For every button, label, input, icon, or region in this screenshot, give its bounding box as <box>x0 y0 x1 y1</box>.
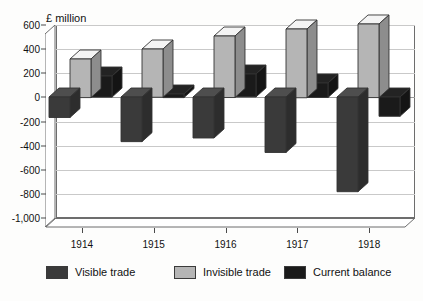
bar-1918-visible-trade <box>337 97 358 192</box>
gridline--1000 <box>56 218 415 219</box>
y-tick-mark--600 <box>41 169 46 170</box>
y-tick-label--800: -800 <box>20 188 40 199</box>
y-tick-mark--1000 <box>41 218 46 219</box>
x-tick-mark-1915 <box>154 228 155 233</box>
y-tick-label-400: 400 <box>23 44 40 55</box>
plot-area: 6004002000-200-400-600-800-1,000 1914191… <box>46 34 405 227</box>
y-tick-mark--800 <box>41 193 46 194</box>
y-tick-mark-200 <box>41 73 46 74</box>
y-tick-label-600: 600 <box>23 20 40 31</box>
bar-1916-visible-trade <box>193 97 214 138</box>
bar-1917-visible-trade <box>265 97 286 152</box>
y-tick-label-200: 200 <box>23 68 40 79</box>
legend-label-invisible-trade: Invisible trade <box>203 266 271 278</box>
y-tick-mark-400 <box>41 49 46 50</box>
bar-1918-current-balance <box>379 97 400 116</box>
legend-swatch-visible-trade <box>46 266 68 279</box>
chart-container: £ million 6004002000-200-400-600-800-1,0… <box>0 0 423 301</box>
y-tick-mark--200 <box>41 121 46 122</box>
legend-label-current-balance: Current balance <box>313 266 391 278</box>
chart-legend: Visible tradeInvisible tradeCurrent bala… <box>46 262 386 288</box>
y-axis-title: £ million <box>46 12 86 24</box>
y-tick-label--600: -600 <box>20 164 40 175</box>
x-tick-label-1916: 1916 <box>214 239 236 250</box>
legend-label-visible-trade: Visible trade <box>75 266 135 278</box>
y-tick-label--400: -400 <box>20 140 40 151</box>
plot-floor <box>46 218 405 227</box>
y-tick-label-0: 0 <box>34 92 40 103</box>
y-tick-mark--400 <box>41 145 46 146</box>
legend-item-visible-trade[interactable]: Visible trade <box>46 262 135 282</box>
bar-1917-invisible-trade <box>286 29 307 98</box>
x-tick-mark-1916 <box>226 228 227 233</box>
y-tick-label--200: -200 <box>20 116 40 127</box>
x-tick-label-1918: 1918 <box>358 239 380 250</box>
x-tick-label-1915: 1915 <box>143 239 165 250</box>
x-axis-labels: 19141915191619171918 <box>46 227 405 257</box>
bar-1915-visible-trade <box>121 97 142 142</box>
plot-left-wall <box>45 25 56 227</box>
y-tick-mark-600 <box>41 25 46 26</box>
x-tick-label-1914: 1914 <box>71 239 93 250</box>
legend-swatch-current-balance <box>284 266 306 279</box>
bar-1918-invisible-trade <box>358 24 379 98</box>
legend-item-current-balance[interactable]: Current balance <box>284 262 391 282</box>
x-tick-label-1917: 1917 <box>286 239 308 250</box>
x-tick-mark-1918 <box>369 228 370 233</box>
x-tick-mark-1914 <box>82 228 83 233</box>
y-tick-label--1000: -1,000 <box>12 213 40 224</box>
legend-item-invisible-trade[interactable]: Invisible trade <box>174 262 271 282</box>
bar-1914-visible-trade <box>49 97 70 118</box>
y-tick-mark-0 <box>41 97 46 98</box>
x-tick-mark-1917 <box>297 228 298 233</box>
legend-swatch-invisible-trade <box>174 266 196 279</box>
